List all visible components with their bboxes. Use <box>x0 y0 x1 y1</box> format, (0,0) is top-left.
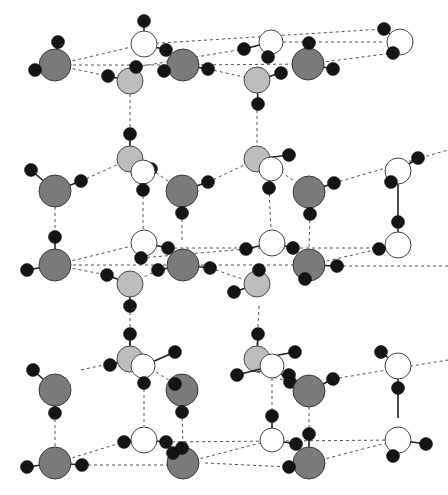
oxygen-atom-white <box>131 354 155 378</box>
hydrogen-atom <box>158 65 171 78</box>
hydrogen-atom <box>231 369 244 382</box>
hydrogen-atom <box>240 243 253 256</box>
hydrogen-atom <box>169 346 182 359</box>
oxygen-atom-dark <box>39 374 71 406</box>
hydrogen-atom <box>299 273 312 286</box>
oxygen-atom-white <box>385 353 411 379</box>
hydrogen-atom <box>135 252 148 265</box>
oxygen-atom-dark <box>293 375 325 407</box>
hydrogen-atom <box>373 243 386 256</box>
hydrogen-atom <box>266 410 279 423</box>
water-molecule-L3f <box>228 264 271 299</box>
hydrogen-atom <box>49 407 62 420</box>
water-molecule-L4h <box>375 346 412 395</box>
hydrogen-bond <box>183 64 308 65</box>
hydrogen-atom <box>49 231 62 244</box>
water-molecule-L1h <box>378 23 414 60</box>
hydrogen-atom <box>392 216 405 229</box>
hydrogen-atom <box>21 461 34 474</box>
oxygen-atom-dark <box>166 175 198 207</box>
oxygen-atom-dark <box>167 249 199 281</box>
hydrogen-atom <box>252 328 265 341</box>
oxygen-atom-white <box>131 427 157 453</box>
hydrogen-atom <box>290 438 303 451</box>
hydrogen-atom <box>21 264 34 277</box>
hydrogen-atom <box>75 175 88 188</box>
hydrogen-atom <box>124 300 137 313</box>
hydrogen-atom <box>327 63 340 76</box>
oxygen-atom-white <box>259 230 285 256</box>
water-hbond-network-diagram <box>0 0 448 495</box>
hydrogen-atom <box>253 264 266 277</box>
hydrogen-atom <box>289 346 302 359</box>
hydrogen-atom <box>27 364 40 377</box>
oxygen-atom-white <box>131 31 157 57</box>
hydrogen-atom <box>275 67 288 80</box>
water-molecule-L5e <box>283 428 326 480</box>
hydrogen-atom <box>124 128 137 141</box>
hydrogen-atom <box>303 428 316 441</box>
hydrogen-atom <box>202 176 215 189</box>
hydrogen-atom <box>252 98 265 111</box>
water-molecule-L2b <box>131 160 155 197</box>
hydrogen-bond <box>205 463 289 467</box>
hydrogen-atom <box>331 260 344 273</box>
hydrogen-atom <box>137 184 150 197</box>
water-molecule-L1g <box>292 37 340 81</box>
hydrogen-atom <box>152 264 165 277</box>
hydrogen-atom <box>76 459 89 472</box>
water-molecule-L2h <box>385 152 425 189</box>
hydrogen-atom <box>204 262 217 275</box>
hydrogen-atom <box>176 207 189 220</box>
oxygen-atom-dark <box>39 175 71 207</box>
hydrogen-atom <box>176 406 189 419</box>
water-molecule-L3d <box>152 249 217 281</box>
hydrogen-atom <box>387 450 400 463</box>
water-molecule-L2g <box>293 176 341 221</box>
water-molecule-L5d <box>260 410 303 453</box>
water-molecule-L3a <box>21 231 72 282</box>
hydrogen-atom <box>378 23 391 36</box>
water-molecule-L1e <box>238 30 284 64</box>
water-molecule-L3g <box>293 249 344 286</box>
hydrogen-atom <box>25 164 38 177</box>
oxygen-atom-dark <box>293 176 325 208</box>
hydrogen-atom <box>263 182 276 195</box>
hydrogen-atom <box>124 328 137 341</box>
hydrogen-atom <box>304 208 317 221</box>
hydrogen-atom <box>283 369 296 382</box>
oxygen-atom-dark <box>167 49 199 81</box>
water-molecule-L2c <box>25 164 88 208</box>
oxygen-atom-light <box>244 67 270 93</box>
oxygen-atom-white <box>260 354 284 378</box>
oxygen-atom-white <box>385 427 411 453</box>
water-molecule-L2d <box>166 175 215 220</box>
hydrogen-atom <box>283 149 296 162</box>
molecules <box>21 15 433 480</box>
water-molecule-L1a <box>29 36 72 82</box>
oxygen-atom-white <box>385 232 411 258</box>
hydrogen-atom <box>138 15 151 28</box>
water-molecule-L5c <box>167 442 200 480</box>
hydrogen-atom <box>283 461 296 474</box>
water-molecule-L3c <box>101 269 144 313</box>
hydrogen-atom <box>101 269 114 282</box>
oxygen-atom-white <box>131 160 155 184</box>
oxygen-atom-dark <box>39 49 71 81</box>
water-molecule-L1b <box>131 15 173 58</box>
water-molecule-L5b <box>21 447 89 479</box>
water-molecule-L4d <box>166 374 198 419</box>
hydrogen-atom <box>29 64 42 77</box>
hydrogen-atom <box>228 286 241 299</box>
hydrogen-atom <box>375 346 388 359</box>
hydrogen-atom <box>102 70 115 83</box>
hydrogen-atom <box>327 373 340 386</box>
hydrogen-atom <box>118 436 131 449</box>
hydrogen-atom <box>412 152 425 165</box>
hydrogen-atom <box>176 442 189 455</box>
oxygen-atom-dark <box>292 48 324 80</box>
hydrogen-atom <box>160 436 173 449</box>
water-molecule-L5f <box>385 427 433 463</box>
water-molecule-L1c <box>102 61 144 95</box>
water-molecule-L2f <box>259 157 283 195</box>
